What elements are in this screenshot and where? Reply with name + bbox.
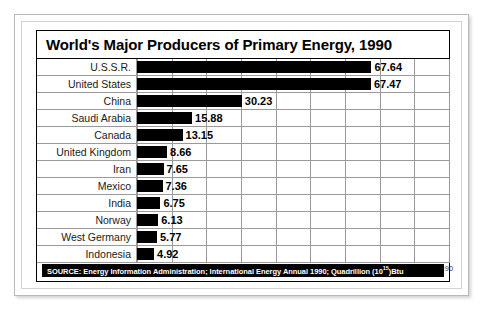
category-label: Mexico (98, 180, 131, 192)
bar (137, 146, 167, 158)
bar-cell: 7.65 (137, 161, 449, 177)
category-label: United Kingdom (56, 146, 131, 158)
category-label: U.S.S.R. (90, 61, 131, 73)
category-cell: Norway (37, 212, 137, 228)
bar (137, 197, 160, 209)
x-tick-label: 90 (445, 264, 453, 273)
gridline (449, 59, 450, 263)
source-prefix: SOURCE: (47, 267, 81, 276)
bar-value-label: 6.75 (160, 197, 184, 209)
chart-outer-frame: World's Major Producers of Primary Energ… (14, 14, 469, 296)
bar-cell: 67.47 (137, 76, 449, 92)
table-row: West Germany5.77 (37, 229, 449, 246)
table-row: Canada13.15 (37, 127, 449, 144)
category-cell: India (37, 195, 137, 211)
category-cell: United Kingdom (37, 144, 137, 160)
source-suffix: )Btu (389, 267, 404, 276)
source-footer: SOURCE: Energy Information Administratio… (42, 264, 444, 277)
bar-cell: 30.23 (137, 93, 449, 109)
category-label: Iran (113, 163, 131, 175)
bar (137, 78, 371, 90)
category-label: Saudi Arabia (71, 112, 131, 124)
source-text: SOURCE: Energy Information Administratio… (47, 265, 404, 276)
bar (137, 95, 242, 107)
bar-value-label: 15.88 (192, 112, 223, 124)
bar-value-label: 67.64 (371, 61, 402, 73)
table-row: United States67.47 (37, 76, 449, 93)
category-cell: United States (37, 76, 137, 92)
bar-cell: 6.75 (137, 195, 449, 211)
bar-value-label: 7.36 (163, 180, 187, 192)
bar-value-label: 30.23 (242, 95, 273, 107)
chart-title-row: World's Major Producers of Primary Energ… (37, 31, 449, 59)
bar (137, 231, 157, 243)
table-row: Saudi Arabia15.88 (37, 110, 449, 127)
bar-value-label: 8.66 (167, 146, 191, 158)
chart-plot-area: U.S.S.R.67.64United States67.47China30.2… (37, 59, 449, 281)
chart-card: World's Major Producers of Primary Energ… (36, 30, 450, 282)
table-row: India6.75 (37, 195, 449, 212)
category-cell: China (37, 93, 137, 109)
source-body: Energy Information Administration; Inter… (83, 267, 382, 276)
category-label: United States (68, 78, 131, 90)
bar-value-label: 6.13 (158, 214, 182, 226)
category-cell: West Germany (37, 229, 137, 245)
category-label: Canada (94, 129, 131, 141)
table-row: China30.23 (37, 93, 449, 110)
category-cell: Indonesia (37, 246, 137, 262)
category-label: West Germany (61, 231, 131, 243)
bar-value-label: 4.92 (154, 248, 178, 260)
bar-value-label: 13.15 (183, 129, 214, 141)
table-row: Iran7.65 (37, 161, 449, 178)
bar-value-label: 67.47 (371, 78, 402, 90)
page-title: World's Major Producers of Primary Energ… (46, 36, 392, 53)
table-row: United Kingdom8.66 (37, 144, 449, 161)
bar-value-label: 5.77 (157, 231, 181, 243)
bar (137, 163, 164, 175)
bar (137, 112, 192, 124)
category-cell: Iran (37, 161, 137, 177)
table-row: Norway6.13 (37, 212, 449, 229)
bar-cell: 5.77 (137, 229, 449, 245)
bar-rows: U.S.S.R.67.64United States67.47China30.2… (37, 59, 449, 263)
category-label: India (108, 197, 131, 209)
table-row: Indonesia4.92 (37, 246, 449, 263)
bar (137, 129, 183, 141)
table-row: U.S.S.R.67.64 (37, 59, 449, 76)
category-cell: Canada (37, 127, 137, 143)
bar (137, 214, 158, 226)
bar-cell: 7.36 (137, 178, 449, 194)
bar-cell: 67.64 (137, 59, 449, 75)
category-cell: U.S.S.R. (37, 59, 137, 75)
table-row: Mexico7.36 (37, 178, 449, 195)
bar-value-label: 7.65 (164, 163, 188, 175)
category-label: Indonesia (85, 248, 131, 260)
category-label: China (104, 95, 131, 107)
bar-cell: 6.13 (137, 212, 449, 228)
bar (137, 248, 154, 260)
bar-cell: 8.66 (137, 144, 449, 160)
bar-cell: 4.92 (137, 246, 449, 262)
category-cell: Mexico (37, 178, 137, 194)
category-cell: Saudi Arabia (37, 110, 137, 126)
bar (137, 61, 371, 73)
bar-cell: 15.88 (137, 110, 449, 126)
category-label: Norway (95, 214, 131, 226)
bar-cell: 13.15 (137, 127, 449, 143)
bar (137, 180, 163, 192)
